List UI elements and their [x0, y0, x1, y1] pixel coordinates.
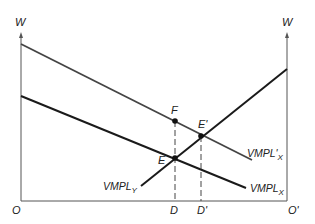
labor-allocation-diagram: W W O O' F E E' D D' VMPL'X VMPLX VMPLY — [0, 0, 315, 224]
point-e-label: E — [158, 154, 166, 166]
vmpl-x-label-main: VMPL — [250, 182, 279, 194]
point-f — [172, 118, 178, 124]
vmpl-x-prime-label-sub: X — [277, 153, 284, 162]
vmpl-y-label-main: VMPL — [103, 180, 132, 192]
vmpl-y-label-sub: Y — [132, 186, 138, 195]
d-marker-label: D — [170, 204, 178, 216]
origin-right-label: O' — [288, 204, 300, 216]
vmpl-x-prime-label-main: VMPL' — [247, 147, 279, 159]
point-e — [172, 155, 178, 161]
d-prime-marker-label: D' — [197, 204, 208, 216]
vmpl-y-label: VMPLY — [103, 180, 138, 195]
vmpl-x-prime-label: VMPL'X — [247, 147, 284, 162]
point-e-prime-label: E' — [198, 118, 208, 130]
left-y-axis-label: W — [15, 16, 27, 28]
point-f-label: F — [171, 104, 179, 116]
vmpl-x-label: VMPLX — [250, 182, 285, 197]
right-y-axis-label: W — [282, 16, 294, 28]
right-axis-arrow-icon — [285, 32, 289, 38]
point-e-prime — [198, 133, 204, 139]
vmpl-x-curve — [21, 96, 246, 188]
vmpl-y-curve — [141, 69, 287, 186]
left-axis-arrow-icon — [19, 32, 23, 38]
origin-left-label: O — [12, 204, 21, 216]
vmpl-x-label-sub: X — [278, 188, 285, 197]
